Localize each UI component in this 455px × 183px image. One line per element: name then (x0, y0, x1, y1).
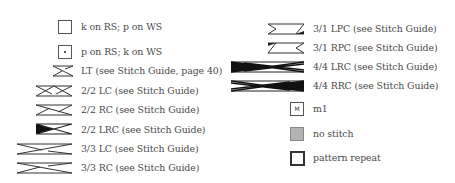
dot-icon (64, 51, 66, 53)
4-4-lrc-cable-icon (230, 61, 305, 73)
legend-label: k on RS; p on WS (81, 19, 162, 35)
legend-label: LT (see Stitch Guide, page 40) (81, 63, 222, 79)
legend-label: 3/3 LC (see Stitch Guide) (81, 141, 198, 157)
legend-label: p on RS; k on WS (81, 44, 162, 60)
pattern-repeat-square-icon (290, 151, 305, 166)
4-4-rrc-cable-icon (230, 80, 305, 92)
legend-label: 3/1 RPC (see Stitch Guide) (313, 40, 438, 56)
no-stitch-square-icon (290, 127, 304, 141)
knit-square-icon (58, 20, 72, 34)
make-one-square-icon: M (290, 102, 304, 116)
left-twist-icon (52, 65, 74, 77)
legend-label: 2/2 LRC (see Stitch Guide) (81, 122, 205, 138)
legend-label: pattern repeat (313, 150, 381, 166)
purl-dot-square-icon (58, 45, 72, 59)
legend-label: no stitch (313, 126, 353, 142)
legend-label: 4/4 RRC (see Stitch Guide) (313, 78, 438, 94)
2-2-left-cross-cable-icon (35, 85, 73, 97)
3-1-lpc-cable-icon (267, 23, 305, 35)
legend-label: 3/1 LPC (see Stitch Guide) (313, 21, 437, 37)
legend-label: 2/2 RC (see Stitch Guide) (81, 102, 199, 118)
3-3-left-cross-cable-icon (16, 143, 73, 155)
3-1-rpc-cable-icon (267, 42, 305, 54)
legend-label: 3/3 RC (see Stitch Guide) (81, 160, 199, 176)
3-3-right-cross-cable-icon (16, 162, 73, 174)
legend-label: m1 (313, 101, 328, 117)
2-2-right-cross-cable-icon (35, 104, 73, 116)
m1-glyph: M (291, 105, 303, 113)
legend-label: 4/4 LRC (see Stitch Guide) (313, 59, 437, 75)
legend-label: 2/2 LC (see Stitch Guide) (81, 83, 198, 99)
2-2-lrc-cable-icon (35, 123, 73, 135)
